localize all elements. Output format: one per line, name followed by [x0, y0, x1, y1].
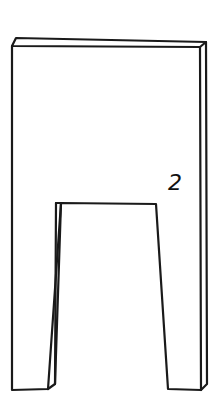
top-face	[12, 38, 206, 47]
board-piece-drawing	[0, 0, 221, 408]
front-face-outline	[12, 46, 201, 390]
part-number-label: 2	[168, 170, 182, 195]
